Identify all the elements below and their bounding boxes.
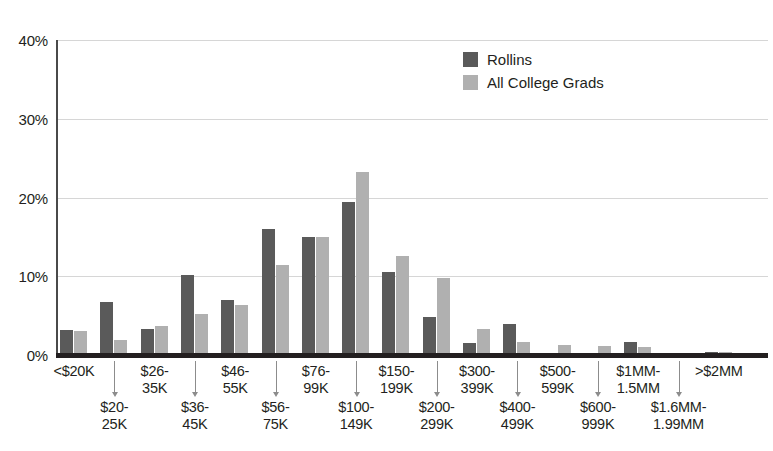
x-axis-tick-label: $500-599K — [521, 363, 595, 397]
x-axis-tick-label-line: $100- — [319, 399, 393, 416]
x-axis-tick-label: $150-199K — [359, 363, 433, 397]
bar-group — [181, 40, 209, 355]
x-axis-tick-label-line: $200- — [400, 399, 474, 416]
x-axis-tick-connector — [517, 361, 518, 393]
x-axis-tick-label-line: 499K — [480, 416, 554, 433]
x-axis-tick-label-line: 149K — [319, 416, 393, 433]
x-axis-tick-connector — [679, 361, 680, 393]
x-axis-tick-label: $200-299K — [400, 399, 474, 433]
bar — [195, 314, 208, 355]
x-axis-tick-label: $76-99K — [279, 363, 353, 397]
x-axis-tick-label: $56-75K — [239, 399, 313, 433]
bar — [155, 326, 168, 355]
bar — [423, 317, 436, 355]
bar — [276, 265, 289, 355]
y-axis-tick-label: 20% — [19, 189, 57, 206]
bar — [74, 331, 87, 355]
bar-group — [221, 40, 249, 355]
x-axis-tick-label: $46-55K — [198, 363, 272, 397]
plot-area: 0%10%20%30%40% — [57, 40, 768, 355]
y-axis-tick-label: 30% — [19, 110, 57, 127]
x-axis-tick-label: $26-35K — [118, 363, 192, 397]
x-axis-tick-label-line: 299K — [400, 416, 474, 433]
bar-group — [262, 40, 290, 355]
x-axis-tick-connector — [356, 361, 357, 393]
x-axis-tick-label: $300-399K — [440, 363, 514, 397]
bar — [382, 272, 395, 355]
x-axis-tick-connector — [598, 361, 599, 393]
legend-label: All College Grads — [487, 74, 604, 91]
x-axis-tick-label-line: $400- — [480, 399, 554, 416]
x-axis-tick-label: $400-499K — [480, 399, 554, 433]
x-axis-tick-connector — [195, 361, 196, 393]
bar-group — [342, 40, 370, 355]
x-axis-tick-label-line: 999K — [561, 416, 635, 433]
x-axis-tick-label-line: 99K — [279, 380, 353, 397]
x-axis-tick-label-line: $36- — [158, 399, 232, 416]
bar-group — [141, 40, 169, 355]
x-axis-tick-label-line: 35K — [118, 380, 192, 397]
y-axis-tick-label: 10% — [19, 268, 57, 285]
x-axis-tick-label-line: $150- — [359, 363, 433, 380]
legend-item-rollins: Rollins — [463, 48, 604, 71]
legend-item-all-college-grads: All College Grads — [463, 71, 604, 94]
y-axis-line — [56, 40, 58, 356]
x-axis-tick-connector — [437, 361, 438, 393]
bar-group — [60, 40, 88, 355]
y-axis-tick-label: 40% — [19, 32, 57, 49]
x-axis-tick-label-line: >$2MM — [682, 363, 756, 380]
x-axis-tick-connector — [114, 361, 115, 393]
bar — [356, 172, 369, 355]
x-axis-tick-label-line: $26- — [118, 363, 192, 380]
bar — [235, 305, 248, 355]
x-axis-tick-label: $1MM-1.5MM — [601, 363, 675, 397]
x-axis-tick-label-line: $300- — [440, 363, 514, 380]
bar — [302, 237, 315, 355]
x-axis-tick-label-line: $1MM- — [601, 363, 675, 380]
x-axis-tick-label-line: $56- — [239, 399, 313, 416]
x-axis-tick-label-line: 199K — [359, 380, 433, 397]
x-axis-tick-label: $100-149K — [319, 399, 393, 433]
arrow-down-icon — [676, 392, 682, 397]
x-axis-labels: <$20K$20-25K$26-35K$36-45K$46-55K$56-75K… — [0, 358, 773, 451]
bar — [60, 330, 73, 355]
x-axis-tick-label-line: 1.99MM — [642, 416, 716, 433]
x-axis-tick-label-line: $76- — [279, 363, 353, 380]
legend-swatch-icon — [463, 75, 478, 90]
x-axis-tick-label: <$20K — [37, 363, 111, 380]
x-axis-tick-label-line: $46- — [198, 363, 272, 380]
bar — [316, 237, 329, 355]
bar-group — [423, 40, 451, 355]
x-axis-tick-label-line: 45K — [158, 416, 232, 433]
x-axis-tick-connector — [276, 361, 277, 393]
bar-group — [624, 40, 652, 355]
legend-label: Rollins — [487, 51, 532, 68]
bar — [181, 275, 194, 355]
bar — [262, 229, 275, 355]
bar — [141, 329, 154, 355]
x-axis-tick-label: $36-45K — [158, 399, 232, 433]
x-axis-tick-label-line: 1.5MM — [601, 380, 675, 397]
bar — [503, 324, 516, 356]
bar — [396, 256, 409, 355]
x-axis-tick-label-line: $500- — [521, 363, 595, 380]
bar — [221, 300, 234, 355]
x-axis-tick-label: >$2MM — [682, 363, 756, 380]
bar-group — [665, 40, 693, 355]
bar-group — [382, 40, 410, 355]
bar — [437, 278, 450, 355]
bar-group — [705, 40, 733, 355]
x-axis-tick-label-line: <$20K — [37, 363, 111, 380]
x-axis-tick-label-line: $600- — [561, 399, 635, 416]
legend-swatch-icon — [463, 52, 478, 67]
x-axis-tick-label-line: 55K — [198, 380, 272, 397]
x-axis-tick-label-line: $1.6MM- — [642, 399, 716, 416]
bar-group — [100, 40, 128, 355]
chart-legend: Rollins All College Grads — [463, 48, 604, 94]
bar — [342, 202, 355, 355]
x-axis-tick-label: $20-25K — [77, 399, 151, 433]
bar-chart: 0%10%20%30%40% Rollins All College Grads… — [0, 0, 773, 451]
bar — [100, 302, 113, 355]
x-axis-tick-label-line: 599K — [521, 380, 595, 397]
x-axis-tick-label: $1.6MM-1.99MM — [642, 399, 716, 433]
